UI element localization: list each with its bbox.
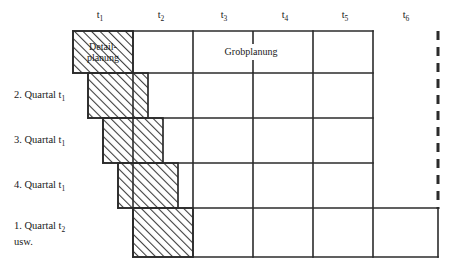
column-header-t6: t6 xyxy=(403,10,410,23)
column-header-t1: t1 xyxy=(97,10,104,23)
row-label-4-quartal-t1: 4. Quartal t1 xyxy=(14,179,65,195)
hatched-block-row-2 xyxy=(88,73,148,118)
hatched-block-row-5 xyxy=(133,208,193,257)
detailplanung-label: Detail- planung xyxy=(87,41,119,63)
detailplanung-line-2: planung xyxy=(87,52,119,63)
grobplanung-label: Grobplanung xyxy=(225,46,278,58)
column-header-t3: t3 xyxy=(221,10,228,23)
row-label-1-quartal-t2: 1. Quartal t2 usw. xyxy=(14,220,65,248)
row-label-3-quartal-t1: 3. Quartal t1 xyxy=(14,134,65,150)
column-header-t5: t5 xyxy=(342,10,349,23)
column-header-t4: t4 xyxy=(282,10,289,23)
detailplanung-line-1: Detail- xyxy=(87,41,119,52)
diagram-canvas xyxy=(0,0,452,267)
row-label-usw: usw. xyxy=(14,236,65,248)
hatched-block-row-4 xyxy=(118,163,178,208)
row-label-2-quartal-t1: 2. Quartal t1 xyxy=(14,89,65,105)
planning-diagram: t1 t2 t3 t4 t5 t6 2. Quartal t1 3. Quart… xyxy=(0,0,452,267)
column-header-t2: t2 xyxy=(158,10,165,23)
